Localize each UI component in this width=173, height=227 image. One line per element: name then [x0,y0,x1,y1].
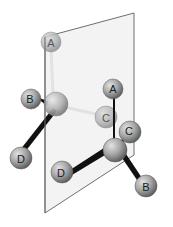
atom-left-c-label: C [102,112,110,124]
atom-left-a-label: A [47,37,55,49]
molecule-diagram: A C B D A C D [0,0,173,227]
atom-left-b-label: B [26,93,33,105]
right-center-atom [103,138,127,162]
atom-right-a-label: A [109,83,117,95]
atom-right-d-label: D [57,167,65,179]
atom-right-b-label: B [142,181,149,193]
left-center-atom [44,92,68,116]
atom-right-c-label: C [125,125,133,137]
atom-left-d-label: D [17,153,25,165]
